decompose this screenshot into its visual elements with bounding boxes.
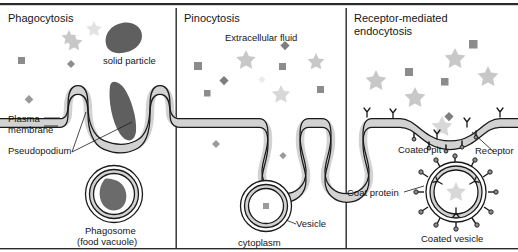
panel-title-phagocytosis: Phagocytosis — [8, 12, 73, 25]
receptor-label: Receptor — [475, 145, 514, 156]
coated-vesicle-label: Coated vesicle — [421, 233, 483, 244]
phagosome-label: Phagosome — [85, 225, 136, 236]
panel-divider-2 — [346, 8, 347, 248]
plasma-membrane-label: Plasma membrane — [8, 113, 53, 135]
extracellular-fluid-label: Extracellular fluid — [225, 32, 297, 43]
vesicle-shape — [241, 181, 292, 232]
panel-title-pinocytosis: Pinocytosis — [184, 12, 240, 25]
cytoplasm-label: cytoplasm — [238, 237, 281, 248]
top-rule — [0, 3, 518, 5]
solid-particle-shape — [106, 23, 142, 54]
solid-particle-label: solid particle — [103, 55, 156, 66]
endocytosis-diagram: Phagocytosis solid particle Plasma membr… — [0, 0, 518, 252]
vesicle-label: Vesicle — [296, 218, 326, 229]
panel-divider-1 — [176, 8, 177, 248]
pinocytosis-invagination-content — [279, 152, 286, 159]
pinocytosis-particles — [194, 41, 325, 148]
coated-pit-label: Coated pit — [398, 144, 441, 155]
food-vacuole-label: (food vacuole) — [77, 236, 137, 247]
vesicle-leader — [286, 220, 296, 224]
phagosome-shape — [86, 166, 143, 223]
panel-title-rme: Receptor-mediated endocytosis — [354, 12, 448, 38]
coated-vesicle-shape — [414, 154, 498, 231]
coat-protein-label: Coat protein — [347, 187, 399, 198]
pseudopodium-label: Pseudopodium — [8, 145, 71, 156]
bottom-rule — [0, 248, 518, 249]
